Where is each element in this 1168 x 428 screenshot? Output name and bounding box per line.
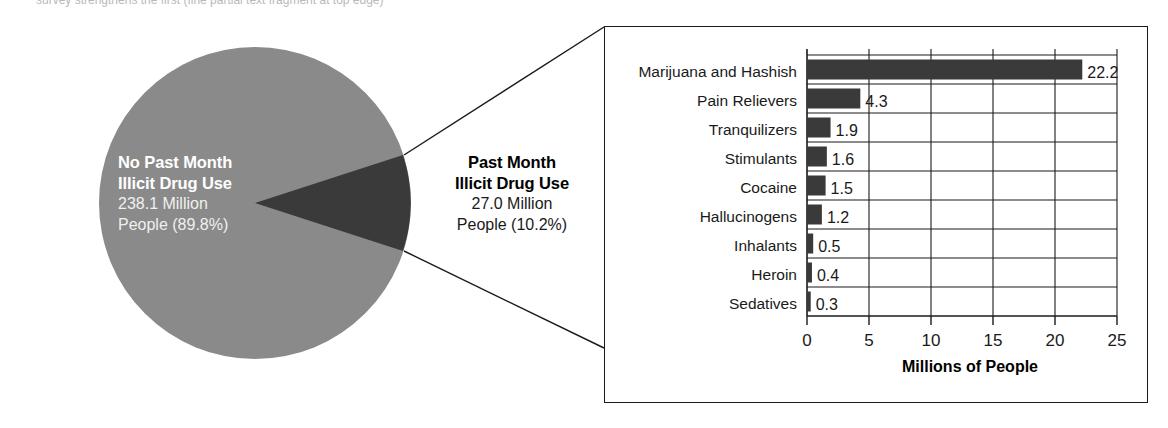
bar-value-label: 0.4	[817, 267, 839, 284]
bar-category-label: Hallucinogens	[700, 208, 798, 225]
bar-category-label: Heroin	[751, 266, 797, 283]
bar	[807, 89, 860, 109]
bar-category-label: Tranquilizers	[709, 121, 797, 138]
x-tick-label: 20	[1046, 331, 1065, 350]
x-tick-label: 5	[864, 331, 873, 350]
pie-minor-value-line2: People (10.2%)	[432, 215, 592, 235]
bar-value-label: 0.5	[818, 238, 840, 255]
pie-minor-title-line1: Past Month	[432, 152, 592, 173]
bar-category-label: Pain Relievers	[697, 92, 797, 109]
bar-category-label: Sedatives	[729, 295, 797, 312]
bar	[807, 176, 826, 196]
x-axis-title: Millions of People	[902, 358, 1038, 375]
pie-label-past-month-use: Past Month Illicit Drug Use 27.0 Million…	[432, 152, 592, 235]
x-tick-label: 15	[984, 331, 1003, 350]
bar	[807, 118, 831, 138]
callout-line-upper	[404, 27, 604, 155]
pie-chart	[98, 24, 414, 382]
bar-category-label: Cocaine	[740, 179, 797, 196]
x-tick-label: 0	[802, 331, 811, 350]
pie-minor-title-line2: Illicit Drug Use	[432, 173, 592, 194]
bar-value-label: 1.2	[827, 209, 849, 226]
bar-category-label: Inhalants	[734, 237, 797, 254]
pie-minor-value-line1: 27.0 Million	[432, 194, 592, 214]
bar	[807, 60, 1082, 80]
bar-value-label: 0.3	[816, 296, 838, 313]
bar-chart-panel: 0510152025Marijuana and Hashish22.2Pain …	[604, 26, 1148, 403]
bar-value-label: 22.2	[1087, 64, 1118, 81]
bar-category-label: Stimulants	[725, 150, 798, 167]
bar	[807, 263, 812, 283]
bar	[807, 292, 811, 312]
bar-category-label: Marijuana and Hashish	[638, 63, 797, 80]
bar-value-label: 1.9	[836, 122, 858, 139]
illicit-drug-use-figure: survey strengthens the first (fine parti…	[0, 0, 1168, 428]
bar-value-label: 4.3	[865, 93, 887, 110]
bar	[807, 234, 813, 254]
x-tick-label: 10	[922, 331, 941, 350]
pie-chart-svg	[98, 24, 414, 382]
bar	[807, 205, 822, 225]
bar-value-label: 1.6	[832, 151, 854, 168]
bar-value-label: 1.5	[831, 180, 853, 197]
bar	[807, 147, 827, 167]
bar-chart-svg: 0510152025Marijuana and Hashish22.2Pain …	[605, 27, 1146, 401]
x-tick-label: 25	[1108, 331, 1127, 350]
callout-line-lower	[404, 251, 604, 348]
page-bleed-text: survey strengthens the first (fine parti…	[36, 0, 1136, 7]
